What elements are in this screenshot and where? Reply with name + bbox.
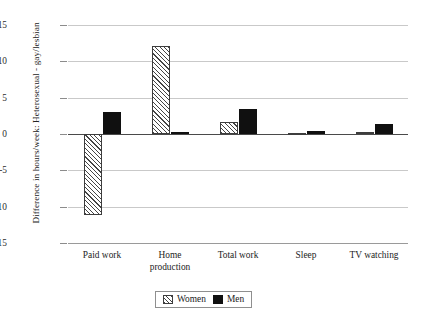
y-tick-mark--5 — [60, 170, 67, 171]
bar-men-paid-work — [103, 112, 121, 134]
legend-item-men: Men — [213, 294, 244, 304]
bar-men-home-production — [171, 132, 189, 134]
x-label-line: production — [136, 262, 204, 274]
y-tick-label-15: 15 — [0, 20, 7, 30]
x-category-label-total-work: Total work — [204, 250, 272, 262]
y-tick-mark-0 — [60, 134, 67, 135]
bar-women-sleep — [288, 133, 306, 135]
bar-women-home-production — [152, 46, 170, 134]
bar-men-tv-watching — [375, 124, 393, 134]
gridline--15 — [68, 243, 408, 244]
y-axis-title: Difference in hours/week: Heterosexual -… — [31, 3, 41, 243]
y-tick-mark-5 — [60, 98, 67, 99]
plot-area — [68, 25, 408, 243]
legend-label-women: Women — [177, 294, 206, 304]
x-label-line: Sleep — [272, 250, 340, 262]
bar-women-tv-watching — [356, 132, 374, 134]
x-category-label-home-production: Homeproduction — [136, 250, 204, 273]
y-tick-mark--10 — [60, 207, 67, 208]
bar-women-total-work — [220, 122, 238, 134]
gridline-5 — [68, 98, 408, 99]
y-tick-label-0: 0 — [0, 129, 7, 139]
y-tick-mark-15 — [60, 25, 67, 26]
y-tick-mark--15 — [60, 243, 67, 244]
x-label-line: TV watching — [340, 250, 408, 262]
y-tick-label--5: -5 — [0, 165, 7, 175]
legend-swatch-men-icon — [213, 295, 223, 304]
x-category-label-sleep: Sleep — [272, 250, 340, 262]
x-category-label-tv-watching: TV watching — [340, 250, 408, 262]
y-tick-label-5: 5 — [0, 93, 7, 103]
legend-label-men: Men — [227, 294, 244, 304]
bar-chart: Difference in hours/week: Heterosexual -… — [0, 0, 425, 319]
y-tick-label--10: -10 — [0, 202, 7, 212]
gridline-15 — [68, 25, 408, 26]
y-tick-mark-10 — [60, 61, 67, 62]
x-category-label-paid-work: Paid work — [68, 250, 136, 262]
gridline-0 — [68, 134, 408, 135]
x-label-line: Home — [136, 250, 204, 262]
bar-men-total-work — [239, 109, 257, 134]
gridline-10 — [68, 61, 408, 62]
y-tick-label-10: 10 — [0, 56, 7, 66]
legend-swatch-women-icon — [163, 295, 173, 304]
y-tick-label--15: -15 — [0, 238, 7, 248]
bar-women-paid-work — [84, 134, 102, 215]
bar-men-sleep — [307, 131, 325, 134]
gridline--10 — [68, 207, 408, 208]
legend-item-women: Women — [163, 294, 206, 304]
x-label-line: Paid work — [68, 250, 136, 262]
gridline--5 — [68, 170, 408, 171]
x-label-line: Total work — [204, 250, 272, 262]
legend: Women Men — [155, 291, 252, 308]
